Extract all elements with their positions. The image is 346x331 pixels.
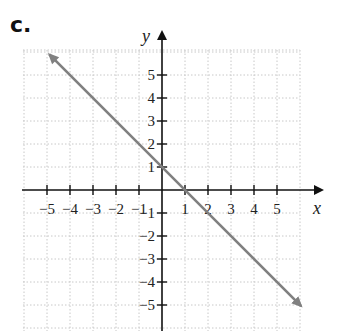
x-axis-label: x	[312, 198, 321, 218]
x-tick-label: −3	[85, 201, 101, 217]
y-tick-label: 5	[148, 67, 156, 83]
x-tick-label: 1	[181, 201, 189, 217]
x-tick-label: 3	[227, 201, 235, 217]
y-tick-label: −4	[139, 274, 155, 290]
y-tick-label: −1	[139, 205, 155, 221]
y-tick-label: 1	[148, 159, 156, 175]
plotted-line	[49, 54, 301, 306]
x-tick-label: 5	[273, 201, 281, 217]
y-tick-label: −5	[139, 297, 155, 313]
coordinate-plane: xy −5−4−3−2−112345−5−4−3−2−112345	[0, 0, 346, 331]
y-axis-label: y	[140, 26, 150, 46]
x-tick-label: 4	[250, 201, 258, 217]
y-tick-label: −3	[139, 251, 155, 267]
x-tick-label: −4	[62, 201, 78, 217]
y-tick-label: 3	[148, 113, 156, 129]
y-tick-label: −2	[139, 228, 155, 244]
line-series	[49, 54, 301, 306]
y-tick-label: 2	[148, 136, 156, 152]
x-tick-label: −2	[108, 201, 124, 217]
y-tick-label: 4	[148, 90, 156, 106]
x-tick-label: −5	[39, 201, 55, 217]
